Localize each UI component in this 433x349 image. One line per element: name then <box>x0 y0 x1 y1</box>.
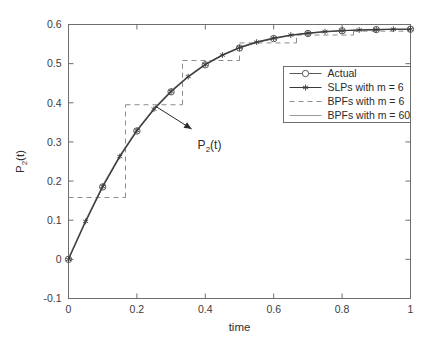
x-axis-tick-labels: 00.20.40.60.81 <box>66 303 414 315</box>
line-slps-m6 <box>69 29 411 259</box>
line-actual <box>69 29 411 259</box>
y-axis-title: P2(t) <box>14 150 29 173</box>
legend-circle-icon <box>302 70 308 76</box>
legend-label: BPFs with m = 60 <box>328 109 411 121</box>
legend-box[interactable]: ActualSLPs with m = 6BPFs with m = 6BPFs… <box>284 67 411 123</box>
x-tick-label: 1 <box>408 303 414 315</box>
y-tick-label: 0 <box>56 253 62 265</box>
y-tick-label: 0.5 <box>47 57 62 69</box>
legend-label: Actual <box>328 67 357 79</box>
line-bpfs-m60 <box>69 29 411 258</box>
y-tick-label: 0.4 <box>47 97 62 109</box>
y-tick-label: 0.6 <box>47 18 62 30</box>
y-axis-tick-labels: -0.100.10.20.30.40.50.6 <box>43 18 61 304</box>
x-tick-label: 0 <box>66 303 72 315</box>
x-tick-label: 0.4 <box>198 303 213 315</box>
x-axis-title: time <box>229 321 251 333</box>
legend-label: SLPs with m = 6 <box>328 81 404 93</box>
figure-container: 00.20.40.60.81 -0.100.10.20.30.40.50.6 P… <box>0 0 433 349</box>
y-tick-label: 0.2 <box>47 175 62 187</box>
curve-annotation: P2(t) <box>155 106 221 154</box>
series-slps-m6 <box>66 26 413 262</box>
y-tick-label: 0.3 <box>47 136 62 148</box>
x-tick-label: 0.6 <box>266 303 281 315</box>
series-actual <box>65 26 413 263</box>
chart-canvas: 00.20.40.60.81 -0.100.10.20.30.40.50.6 P… <box>0 0 433 349</box>
axis-frame <box>69 25 411 299</box>
x-axis-ticks <box>69 25 411 299</box>
series-bpfs-m60 <box>69 29 411 258</box>
x-tick-label: 0.2 <box>130 303 145 315</box>
y-tick-label: 0.1 <box>47 214 62 226</box>
legend-label: BPFs with m = 6 <box>328 95 405 107</box>
annotation-arrow-head <box>184 122 192 129</box>
x-tick-label: 0.8 <box>335 303 350 315</box>
y-axis-ticks <box>69 25 411 299</box>
y-tick-label: -0.1 <box>43 292 61 304</box>
annotation-label: P2(t) <box>198 138 222 154</box>
